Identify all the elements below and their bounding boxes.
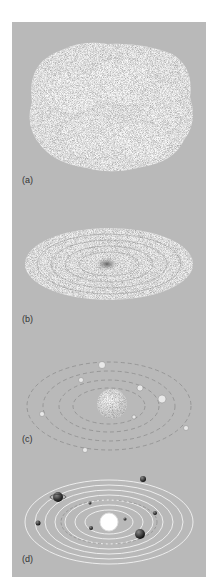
panel-b-disk [25,228,193,300]
panel-d-solar-system [25,476,193,564]
figure-panel: (a) (b) (c) (d) [12,22,206,577]
panel-a-cloud [30,43,193,171]
panel-label-c: (c) [22,434,33,444]
figure-illustration [12,22,206,577]
panel-c-protoplanets [27,362,191,453]
panel-label-d: (d) [22,554,33,564]
panel-label-a: (a) [22,175,33,185]
panel-label-b: (b) [22,314,33,324]
